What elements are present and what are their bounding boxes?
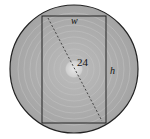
log-cross-section-diagram: w h 24: [0, 0, 150, 139]
height-label: h: [110, 65, 115, 76]
diameter-label: 24: [77, 56, 89, 68]
width-label: w: [71, 15, 78, 26]
